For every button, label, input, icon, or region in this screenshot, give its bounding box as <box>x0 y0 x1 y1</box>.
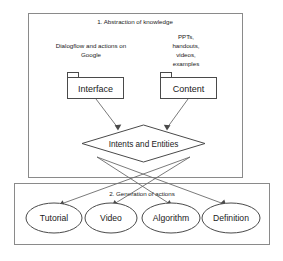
content-annotation-line-3: videos, <box>176 51 196 58</box>
content-node-label: Content <box>173 84 205 94</box>
package-node-content[interactable]: Content <box>161 73 217 99</box>
diagram-canvas: 1. Abstraction of knowledge Dialogflow a… <box>0 0 283 261</box>
edge-content-to-intents <box>167 99 188 128</box>
video-label: Video <box>100 213 122 223</box>
interface-annotation-line-1: Dialogflow and actions on <box>56 42 127 49</box>
arrowhead-content-to-intents <box>164 125 171 131</box>
section-title-abstraction: 1. Abstraction of knowledge <box>97 18 173 25</box>
tutorial-label: Tutorial <box>40 213 68 223</box>
content-annotation-line-4: examples <box>173 60 199 67</box>
interface-annotation-line-2: Google <box>81 51 102 58</box>
edge-interface-to-intents <box>96 99 118 128</box>
knowledge-abstraction-diagram: 1. Abstraction of knowledge Dialogflow a… <box>0 0 283 261</box>
intents-diamond-label: Intents and Entities <box>109 140 179 149</box>
content-annotation-line-1: PPTs, <box>178 33 194 40</box>
content-annotation-line-2: handouts, <box>172 42 199 49</box>
definition-label: Definition <box>213 213 249 223</box>
decision-node-intents-and-entities[interactable]: Intents and Entities <box>82 125 205 162</box>
action-node-algorithm[interactable]: Algorithm <box>142 203 200 233</box>
package-node-interface[interactable]: Interface <box>68 73 124 99</box>
action-node-video[interactable]: Video <box>85 203 137 233</box>
interface-node-label: Interface <box>78 84 113 94</box>
action-node-tutorial[interactable]: Tutorial <box>26 203 82 233</box>
arrowhead-interface-to-intents <box>115 125 122 131</box>
interface-folder-tab <box>68 73 79 78</box>
action-node-definition[interactable]: Definition <box>202 203 260 233</box>
algorithm-label: Algorithm <box>153 213 189 223</box>
content-folder-tab <box>161 73 172 78</box>
section-title-generation: 2. Generation of actions <box>109 190 175 197</box>
